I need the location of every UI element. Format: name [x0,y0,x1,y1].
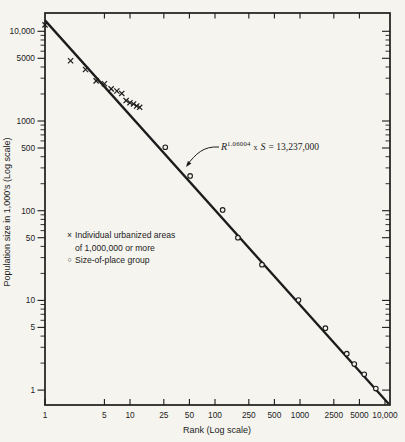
y-tick-label: 50 [26,233,36,243]
data-point-circle [260,262,265,267]
y-tick-label: 1 [30,385,35,395]
equation-annotation: R1.06004xS= 13,237,000 [221,140,319,152]
equation-rhs: = 13,237,000 [269,142,319,152]
data-point-circle [188,174,193,179]
x-tick-label: 10 [125,410,135,420]
data-point-circle [362,372,367,377]
y-tick-label: 5000 [17,53,36,63]
x-tick-label: 100 [208,410,222,420]
data-point-circle [236,235,241,240]
legend-item-urbanized-areas: ×Individual urbanized areas [65,229,175,242]
o-marker-glyph: ○ [65,254,74,267]
data-point-circle [220,208,225,213]
legend-item2-label: Size-of-place group [75,255,150,265]
y-tick-label: 5 [30,322,35,332]
x-tick-label: 50 [185,410,195,420]
data-point-circle [163,145,168,150]
x-marker-glyph: × [65,229,74,242]
x-tick-label: 5 [102,410,107,420]
x-axis-title: Rank (Log scale) [183,425,251,435]
annotation-arrowhead [186,161,191,167]
y-tick-label: 10 [26,295,36,305]
legend-item-size-of-place: ○Size-of-place group [65,254,175,268]
equation-exponent: 1.06004 [227,140,251,147]
annotation-arrow [187,147,219,165]
x-tick-label: 1 [43,410,48,420]
equation-var-s: S [261,141,266,152]
fit-line [45,20,389,404]
legend: ×Individual urbanized areas of 1,000,000… [65,229,175,268]
x-tick-label: 500 [267,410,281,420]
data-point-circle [352,362,357,367]
x-tick-label: 2500 [325,410,344,420]
data-point-circle [323,326,328,331]
y-tick-label: 100 [21,206,35,216]
x-tick-label: 25 [159,410,169,420]
legend-item1-line1: Individual urbanized areas [75,230,175,240]
y-tick-label: 500 [21,143,35,153]
data-point-circle [374,386,379,391]
legend-item1-line2: of 1,000,000 or more [65,242,175,255]
rank-size-chart: 10,0005000100050010050105115102550100250… [0,0,405,442]
x-tick-label: 5000 [350,410,369,420]
x-tick-label: 250 [242,410,256,420]
plot-svg: 10,0005000100050010050105115102550100250… [0,0,405,442]
y-tick-label: 10,000 [10,26,36,36]
x-tick-label: 1000 [291,410,310,420]
y-tick-label: 1000 [17,116,36,126]
y-axis-title: Population size in 1,000's (Log scale) [2,138,12,287]
x-tick-label: 10,000 [372,410,398,420]
data-point-circle [344,351,349,356]
equation-times: x [254,143,258,152]
data-point-circle [296,298,301,303]
